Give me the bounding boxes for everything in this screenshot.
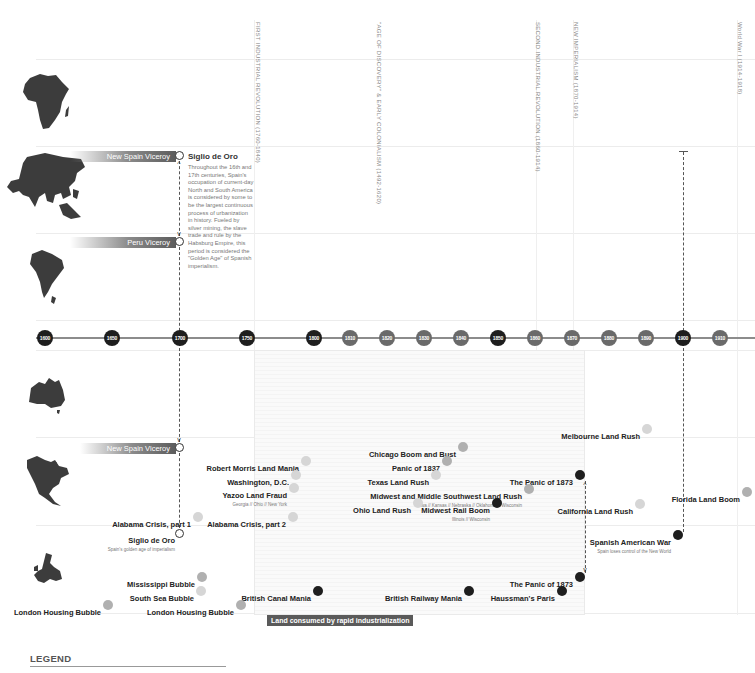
event-title: Florida Land Boom (672, 495, 740, 504)
event-dot-icon[interactable] (464, 586, 474, 596)
event-dot-icon[interactable] (458, 442, 468, 452)
year-marker[interactable]: 1820 (379, 330, 395, 346)
legend-title: LEGEND (30, 653, 71, 664)
event-dot-icon[interactable] (557, 586, 567, 596)
year-marker[interactable]: 1800 (306, 330, 322, 346)
event-item[interactable]: California Land Rush (558, 500, 633, 518)
event-item[interactable]: London Housing Bubble (147, 601, 234, 619)
asia-icon (5, 153, 85, 225)
event-dot-icon[interactable] (236, 600, 246, 610)
event-dot-icon[interactable] (193, 512, 203, 522)
event-title: Yazoo Land Fraud (222, 491, 287, 500)
event-dot-icon[interactable] (492, 498, 502, 508)
band-north-america-new-spain-viceroy: New Spain Viceroy (80, 443, 176, 454)
row-divider (36, 146, 755, 147)
year-marker[interactable]: 1650 (104, 330, 120, 346)
viceroy-marker[interactable] (175, 151, 184, 160)
year-marker[interactable]: 1810 (342, 330, 358, 346)
era-line (737, 20, 738, 615)
event-item[interactable]: London Housing Bubble (14, 601, 101, 619)
band-peru-viceroy: Peru Viceroy (70, 237, 176, 248)
year-marker[interactable]: 1890 (638, 330, 654, 346)
year-marker[interactable]: 1600 (37, 330, 53, 346)
africa-icon (22, 72, 72, 132)
event-item[interactable]: Midwest Rail BoomIllinois // Wisconsin (421, 499, 490, 522)
event-dot-icon[interactable] (103, 600, 113, 610)
event-item[interactable]: Alabama Crisis, part 2 (207, 513, 286, 531)
row-divider (36, 320, 755, 321)
event-title: Melbourne Land Rush (561, 432, 640, 441)
north-america-icon (25, 456, 71, 508)
event-dot-icon[interactable] (575, 572, 585, 582)
event-title: Alabama Crisis, part 2 (207, 520, 286, 529)
event-title: London Housing Bubble (147, 608, 234, 617)
year-marker[interactable]: 1870 (564, 330, 580, 346)
arrow-up-icon: ^ (175, 160, 183, 167)
row-divider (36, 233, 755, 234)
europe-icon (32, 553, 62, 585)
event-dot-icon[interactable] (301, 456, 311, 466)
event-dot-icon[interactable] (635, 499, 645, 509)
event-item[interactable]: Florida Land Boom (672, 488, 740, 506)
arrow-down-icon: v (175, 436, 183, 443)
event-dot-icon[interactable] (442, 456, 452, 466)
band-asia-new-spain-viceroy: New Spain Viceroy (70, 151, 176, 162)
year-marker[interactable]: 1830 (416, 330, 432, 346)
event-dot-icon[interactable] (575, 470, 585, 480)
year-marker[interactable]: 1860 (527, 330, 543, 346)
event-dot-icon[interactable] (742, 487, 752, 497)
australia-icon (27, 378, 67, 414)
event-title: Siglio de Oro (128, 536, 175, 545)
arrow-up-icon: ^ (581, 481, 589, 488)
event-dot-icon[interactable] (291, 470, 301, 480)
event-dot-icon[interactable] (313, 586, 323, 596)
era-label-world-war-one: World War I (1914-1918) (737, 22, 743, 95)
year-marker[interactable]: 1880 (601, 330, 617, 346)
era-label-second-industrial: SECOND INDUSTRIAL REVOLUTION (1860-1914) (535, 22, 541, 172)
event-subtitle: Spain's golden age of imperialism (108, 547, 175, 552)
event-dot-icon[interactable] (288, 512, 298, 522)
event-siglio-na[interactable]: Siglio de Oro Spain's golden age of impe… (108, 529, 175, 552)
event-item[interactable]: Ohio Land Rush (353, 499, 411, 517)
connector-1873 (585, 481, 586, 573)
event-title: Alabama Crisis, part 1 (112, 520, 191, 529)
event-item[interactable]: Yazoo Land FraudGeorgia // Ohio // New Y… (222, 484, 287, 507)
industrialization-label: Land consumed by rapid industrialization (267, 615, 413, 626)
era-label-first-industrial: FIRST INDUSTRIAL REVOLUTION (1760-1840) (255, 22, 261, 163)
event-dot-icon[interactable] (642, 424, 652, 434)
event-title: Haussman's Paris (491, 594, 555, 603)
event-item[interactable]: Alabama Crisis, part 1 (112, 513, 191, 531)
event-dot-icon[interactable] (673, 530, 683, 540)
viceroy-marker[interactable] (175, 237, 184, 246)
event-item[interactable]: British Canal Mania (241, 587, 311, 605)
siglio-description: Throughout the 16th and 17th centuries, … (188, 164, 254, 270)
year-marker[interactable]: 1750 (239, 330, 255, 346)
event-title: British Railway Mania (385, 594, 462, 603)
south-america-icon (28, 250, 68, 306)
event-title: British Canal Mania (241, 594, 311, 603)
year-marker[interactable]: 1700 (172, 330, 188, 346)
event-title: London Housing Bubble (14, 608, 101, 617)
event-dot-icon[interactable] (524, 484, 534, 494)
event-dot-icon[interactable] (196, 586, 206, 596)
year-marker[interactable]: 1850 (490, 330, 506, 346)
year-marker[interactable]: 1900 (675, 330, 691, 346)
event-item[interactable]: Haussman's Paris (491, 587, 555, 605)
event-title: Ohio Land Rush (353, 506, 411, 515)
viceroy-marker[interactable] (175, 443, 184, 452)
event-dot-icon[interactable] (197, 572, 207, 582)
event-dot-icon[interactable] (289, 483, 299, 493)
legend-divider (30, 666, 226, 667)
event-subtitle: Georgia // Ohio // New York (222, 502, 287, 507)
era-label-new-imperialism: NEW IMPERIALISM (1870-1914) (573, 22, 579, 119)
event-title: California Land Rush (558, 507, 633, 516)
era-label-age-of-discovery: "AGE OF DISCOVERY" & EARLY COLONIALISM (… (376, 22, 382, 204)
event-item[interactable]: Spanish American WarSpain loses control … (590, 531, 671, 554)
event-title: Spanish American War (590, 538, 671, 547)
year-marker[interactable]: 1840 (453, 330, 469, 346)
event-item[interactable]: Melbourne Land Rush (561, 425, 640, 443)
event-dot-icon[interactable] (431, 470, 441, 480)
year-marker[interactable]: 1910 (712, 330, 728, 346)
siglio-title: Siglio de Oro (188, 152, 238, 161)
event-item[interactable]: British Railway Mania (385, 587, 462, 605)
